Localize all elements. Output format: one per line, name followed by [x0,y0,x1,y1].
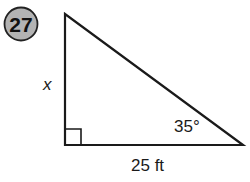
base-label: 25 ft [131,157,164,174]
right-triangle [65,14,243,145]
diagram: 27 x 35° 25 ft [0,0,250,182]
problem-number: 27 [9,13,32,36]
angle-label: 35° [174,118,200,135]
triangle-figure: 27 [0,0,250,182]
right-angle-marker [65,129,81,145]
side-label-x: x [43,76,52,93]
